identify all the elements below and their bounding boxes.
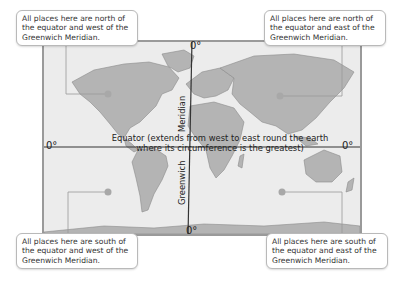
meridian-degree-top: 0°	[190, 40, 201, 51]
meridian-label: Meridian	[177, 96, 187, 132]
equator-degree-left: 0°	[46, 140, 57, 151]
callout-north-west: All places here are north of the equator…	[16, 10, 138, 46]
meridian-degree-bottom: 0°	[186, 225, 197, 236]
callout-south-west: All places here are south of the equator…	[16, 233, 138, 269]
callout-north-east: All places here are north of the equator…	[264, 10, 386, 46]
greenwich-label: Greenwich	[177, 161, 187, 205]
equator-label-line1: Equator (extends from west to east round…	[70, 133, 370, 143]
equator-label-line2: where its circumference is the greatest)	[70, 143, 370, 153]
callout-south-east: All places here are south of the equator…	[266, 233, 388, 269]
equator-label: Equator (extends from west to east round…	[70, 133, 370, 153]
